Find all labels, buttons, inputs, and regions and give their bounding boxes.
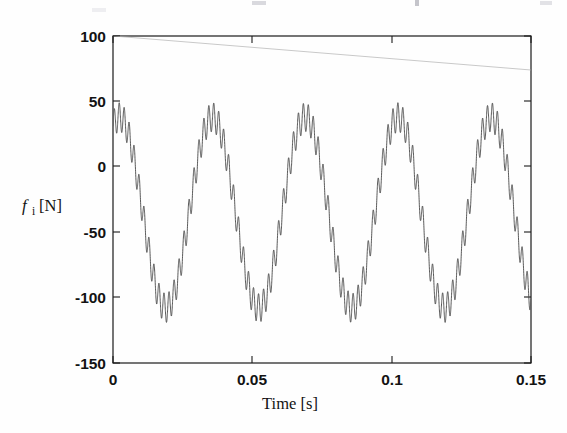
x-axis-title: Time [s]: [262, 394, 318, 413]
x-tick-label-015: 0.15: [516, 371, 547, 388]
y-tick-label-0: 0: [97, 158, 106, 175]
y-axis-title-symbol: f: [22, 196, 29, 215]
y-tick-label-neg150: -150: [75, 355, 106, 372]
envelope-reference-line: [113, 36, 531, 70]
y-tick-label-neg100: -100: [75, 289, 106, 306]
x-tick-label-0: 0: [109, 371, 118, 388]
y-tick-label-100: 100: [80, 28, 106, 45]
y-tick-label-neg50: -50: [84, 224, 106, 241]
y-axis-title-unit: [N]: [39, 196, 62, 215]
figure-page: 100 50 0 -50 -100 -150 0 0.05 0.1 0.15 T…: [0, 0, 567, 433]
y-axis-title: f i [N]: [22, 196, 62, 217]
y-axis-title-subscript: i: [32, 205, 35, 217]
x-tick-label-005: 0.05: [237, 371, 268, 388]
x-tick-label-01: 0.1: [381, 371, 403, 388]
y-tick-label-50: 50: [89, 93, 106, 110]
force-signal-trace: [113, 103, 531, 323]
chart-canvas: 100 50 0 -50 -100 -150 0 0.05 0.1 0.15 T…: [0, 0, 567, 433]
